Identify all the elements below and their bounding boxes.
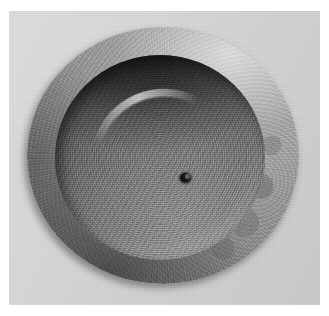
center-hole — [180, 173, 191, 183]
hole-burr-chip — [184, 174, 190, 180]
bowl-turning-grooves — [55, 55, 265, 260]
bowl-top-shadow — [55, 55, 265, 260]
photograph-frame: Top-down grayscale photograph of a round… — [0, 0, 329, 316]
bowl-brush-streaks — [55, 55, 265, 260]
concave-inner-bowl — [55, 55, 265, 260]
background-surface — [9, 11, 320, 305]
outer-flange-ring — [27, 27, 299, 284]
bowl-crescent-highlight — [61, 61, 265, 260]
bowl-grain-texture — [55, 55, 265, 260]
